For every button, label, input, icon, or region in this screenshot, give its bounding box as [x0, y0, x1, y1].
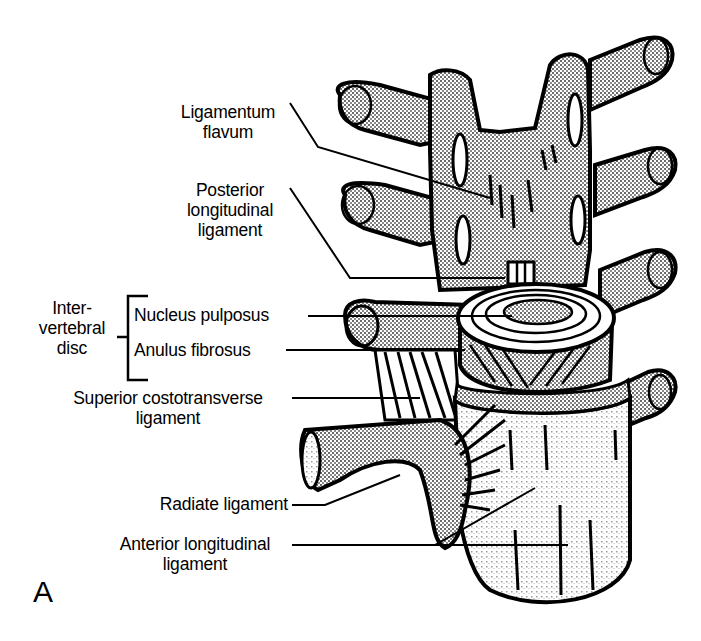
label-line: longitudinal — [174, 200, 286, 220]
label-intervertebral-disc: Inter- vertebral disc — [28, 298, 116, 358]
label-line: Posterior — [174, 180, 286, 200]
label-line: ligament — [48, 408, 288, 428]
label-line: Anterior longitudinal — [100, 534, 290, 554]
nucleus-pulposus-shape — [504, 300, 572, 324]
rib-lower — [301, 420, 469, 548]
label-ligamentum-flavum: Ligamentum flavum — [168, 102, 288, 142]
label-line: Inter- — [28, 298, 116, 318]
rib-upper — [345, 301, 470, 350]
label-nucleus-pulposus: Nucleus pulposus — [134, 305, 269, 325]
label-posterior-longitudinal-ligament: Posterior longitudinal ligament — [174, 180, 286, 240]
label-anterior-longitudinal-ligament: Anterior longitudinal ligament — [100, 534, 290, 574]
anatomy-figure: Ligamentum flavum Posterior longitudinal… — [0, 0, 701, 641]
intervertebral-disc — [458, 284, 614, 392]
label-superior-costotransverse-ligament: Superior costotransverse ligament — [48, 388, 288, 428]
label-line: flavum — [168, 122, 288, 142]
label-line: ligament — [100, 554, 290, 574]
label-line: disc — [28, 338, 116, 358]
panel-letter: A — [33, 576, 53, 608]
label-line: Ligamentum — [168, 102, 288, 122]
label-line: Superior costotransverse — [48, 388, 288, 408]
label-radiate-ligament: Radiate ligament — [126, 494, 288, 514]
label-line: ligament — [174, 220, 286, 240]
label-line: vertebral — [28, 318, 116, 338]
vertebral-arches — [430, 54, 590, 290]
label-anulus-fibrosus: Anulus fibrosus — [134, 340, 251, 360]
superior-costotransverse-ligament — [375, 350, 460, 420]
